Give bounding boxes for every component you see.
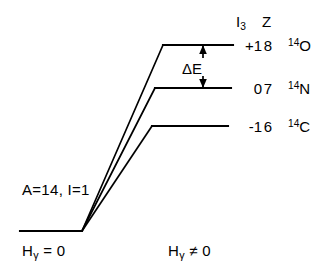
column-header-isospin-projection: I3 [236, 14, 246, 29]
connector-line-oxygen-14 [82, 45, 163, 231]
level-diagram-canvas [0, 0, 334, 272]
level-nuclide-oxygen-14: 14O [288, 38, 311, 53]
isospin-energy-level-figure: I3 Z +1 8 14O 0 7 14N -1 6 14C ΔE A=14, … [0, 0, 334, 272]
level-i3-value-oxygen-14: +1 [232, 38, 262, 53]
level-i3-value-carbon-14: -1 [232, 119, 262, 134]
field-on-label: Hγ ≠ 0 [168, 243, 211, 258]
level-nuclide-carbon-14: 14C [288, 119, 310, 134]
delta-e-arrowhead-up [199, 45, 207, 54]
quantum-numbers-label: A=14, I=1 [22, 182, 90, 197]
connector-line-carbon-14 [82, 126, 152, 231]
connector-line-nitrogen-14 [82, 88, 155, 231]
column-header-atomic-number: Z [262, 14, 271, 29]
delta-e-arrowhead-down [199, 79, 207, 88]
level-z-value-carbon-14: 6 [259, 119, 277, 134]
field-off-label: Hγ = 0 [22, 243, 65, 258]
level-i3-value-nitrogen-14: 0 [232, 81, 262, 96]
level-z-value-nitrogen-14: 7 [259, 81, 277, 96]
delta-e-label: ΔE [182, 61, 202, 76]
level-z-value-oxygen-14: 8 [259, 38, 277, 53]
level-nuclide-nitrogen-14: 14N [288, 81, 310, 96]
